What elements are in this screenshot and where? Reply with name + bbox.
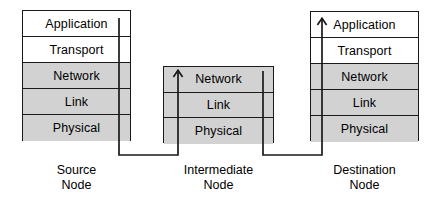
node-stack-destination: Application Transport Network Link Physi… [310, 11, 419, 141]
node-caption-intermediate-line2: Node [158, 178, 279, 193]
layer-label: Transport [338, 44, 392, 58]
layer-destination-link: Link [311, 90, 418, 116]
layer-label: Link [65, 95, 88, 109]
layer-intermediate-network: Network [164, 67, 273, 93]
layer-source-link: Link [23, 89, 130, 115]
layer-destination-physical: Physical [311, 116, 418, 142]
node-caption-intermediate: Intermediate Node [158, 163, 279, 193]
layer-label: Transport [50, 43, 104, 57]
layer-label: Network [53, 69, 100, 83]
layer-label: Network [341, 70, 388, 84]
layer-label: Network [195, 72, 242, 86]
layer-label: Physical [53, 121, 100, 135]
node-stack-intermediate: Network Link Physical [163, 66, 274, 143]
layer-destination-application: Application [311, 12, 418, 38]
node-caption-intermediate-line1: Intermediate [158, 163, 279, 178]
layer-label: Link [353, 96, 376, 110]
layer-source-transport: Transport [23, 37, 130, 63]
layer-intermediate-physical: Physical [164, 118, 273, 144]
layer-intermediate-link: Link [164, 93, 273, 119]
layer-label: Application [45, 17, 107, 31]
node-caption-source-line2: Node [22, 178, 131, 193]
node-caption-source-line1: Source [22, 163, 131, 178]
layer-label: Link [207, 98, 230, 112]
node-caption-destination: Destination Node [306, 163, 423, 193]
layer-source-network: Network [23, 63, 130, 89]
protocol-stack-diagram: Application Transport Network Link Physi… [0, 0, 436, 208]
layer-source-physical: Physical [23, 115, 130, 141]
layer-label: Physical [341, 122, 388, 136]
node-caption-destination-line1: Destination [306, 163, 423, 178]
layer-label: Physical [195, 124, 242, 138]
layer-destination-transport: Transport [311, 38, 418, 64]
node-stack-source: Application Transport Network Link Physi… [22, 10, 131, 141]
layer-source-application: Application [23, 11, 130, 37]
node-caption-source: Source Node [22, 163, 131, 193]
node-caption-destination-line2: Node [306, 178, 423, 193]
layer-label: Application [333, 18, 395, 32]
layer-destination-network: Network [311, 64, 418, 90]
